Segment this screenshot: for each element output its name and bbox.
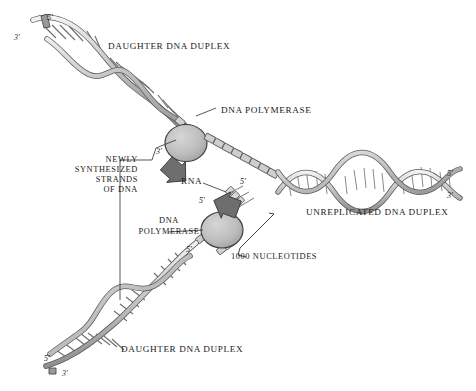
nucleotide-span-bracket-icon [238,213,274,257]
dna-polymerase-ellipse-icon-lower [201,212,243,248]
replication-fork-lower [195,186,274,257]
replication-fork-upper [157,116,279,191]
dna-polymerase-ellipse-icon [165,125,207,162]
daughter-duplex-top [33,14,192,132]
label-rna: RNA [181,177,202,187]
terminus-bottom-left-5prime: 5' [44,355,50,364]
dna-replication-illustration [0,0,476,391]
leader-rna [203,183,226,192]
label-newly-line1: NEWLY [34,155,138,164]
label-unreplicated-duplex: UNREPLICATED DNA DUPLEX [306,208,448,218]
leader-polymerase-top [196,108,216,116]
terminus-top-left-3prime: 3' [14,34,20,43]
label-dna-polymerase-top: DNA POLYMERASE [221,106,311,116]
label-newly-line3: STRANDS [34,175,138,184]
backbone-strand-top-b [47,39,192,132]
terminus-top-left-5prime: 5' [47,14,53,23]
label-daughter-duplex-top: DAUGHTER DNA DUPLEX [108,42,230,52]
label-newly-line4: OF DNA [34,185,138,194]
terminus-fork-3prime: 3' [156,148,162,157]
terminus-bottom-left-3prime: 3' [62,370,68,379]
label-daughter-duplex-bottom: DAUGHTER DNA DUPLEX [121,345,243,355]
label-1000-nucleotides: 1000 NUCLEOTIDES [231,252,317,261]
label-dna-polymerase-bottom-line2: POLYMERASE [134,227,204,236]
dna-replication-figure: DAUGHTER DNA DUPLEX DNA POLYMERASE DNA P… [0,0,476,391]
terminus-lagging-5prime: 5' [186,246,192,255]
terminus-right-5prime: 5' [447,170,453,179]
strand-end-stub-bottom [49,368,56,374]
terminus-right-3prime: 3' [447,192,453,201]
unreplicated-duplex [278,153,460,212]
label-dna-polymerase-bottom-line1: DNA [140,216,198,225]
label-newly-line2: SYNTHESIZED [34,165,138,174]
terminus-rna-bottom-5prime: 5' [199,197,205,206]
leading-strand-segments-upper [204,133,279,179]
terminus-rna-top-5prime: 5' [240,178,246,187]
